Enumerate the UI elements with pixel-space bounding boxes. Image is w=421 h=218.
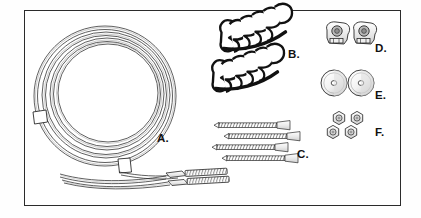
hex-nut — [327, 125, 338, 138]
hex-nut — [333, 111, 344, 124]
part-screws — [212, 121, 300, 163]
part-cable-coil — [33, 26, 229, 189]
label-a: A. — [157, 133, 169, 145]
cable-tie-bottom — [118, 158, 132, 173]
hex-nut — [351, 111, 362, 124]
cable-tails — [60, 172, 178, 189]
label-f: F. — [375, 127, 384, 139]
hex-nut — [345, 125, 356, 138]
washer — [348, 70, 374, 96]
label-c: C. — [297, 149, 309, 161]
label-b: B. — [288, 49, 300, 61]
part-brackets — [327, 22, 377, 44]
bracket — [354, 22, 377, 44]
figure-canvas: A. B. C. D. E. F. — [0, 0, 421, 218]
part-spiral-clips — [206, 2, 298, 95]
spiral-clip-lower — [206, 42, 290, 95]
label-d: D. — [375, 43, 387, 55]
part-washers — [321, 70, 374, 96]
spiral-clip-upper — [214, 2, 298, 55]
screw — [212, 143, 288, 152]
washer — [321, 70, 347, 96]
bracket — [327, 22, 350, 44]
cable-tie-left — [33, 110, 48, 124]
parts-illustration — [0, 0, 421, 218]
screw — [222, 154, 298, 163]
screw — [224, 132, 300, 141]
screw — [214, 121, 290, 130]
cable-terminal-upper — [166, 168, 227, 177]
part-hex-nuts — [327, 111, 362, 138]
cable-terminal-lower — [168, 176, 229, 185]
label-e: E. — [375, 90, 386, 102]
